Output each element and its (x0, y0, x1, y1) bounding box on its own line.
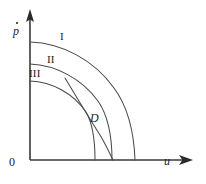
curve-III (30, 81, 95, 160)
y-axis-label: p (13, 25, 19, 37)
diagram-svg (0, 0, 206, 184)
figure-canvas: p u 0 I II III D (0, 0, 206, 184)
curve-label-I: I (60, 31, 64, 42)
curve-label-III: III (29, 68, 41, 79)
y-axis-label-dot-accent (16, 22, 18, 24)
curve-II (30, 64, 112, 160)
origin-label: 0 (9, 156, 15, 168)
curve-label-II: II (47, 54, 55, 65)
y-axis-label-text: p (13, 24, 19, 38)
curve-I (30, 42, 135, 160)
x-axis-label: u (164, 155, 170, 167)
curve-label-D: D (90, 112, 99, 124)
